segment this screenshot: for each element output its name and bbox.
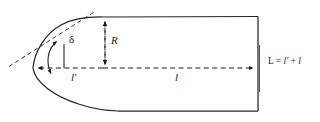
total-length-plus: +: [288, 56, 298, 66]
top-edge: [103, 17, 258, 18]
label-total-length: L = l' + l: [268, 57, 301, 67]
label-nose-offset: l': [71, 72, 76, 83]
label-tangent-angle: δ: [69, 34, 74, 45]
tangent-construction-line: [9, 12, 95, 67]
angle-delta-arc: [48, 42, 57, 74]
angle-delta-indicator: [48, 42, 64, 74]
diagram-canvas: R l' l δ L = l' + l: [0, 0, 320, 122]
total-length-prefix: L =: [268, 56, 284, 66]
label-radius: R: [111, 35, 118, 46]
total-length-term2: l: [298, 56, 301, 66]
upper-nose-curve: [33, 17, 103, 68]
profile-outline: [33, 17, 258, 112]
label-body-length: l: [175, 72, 178, 83]
